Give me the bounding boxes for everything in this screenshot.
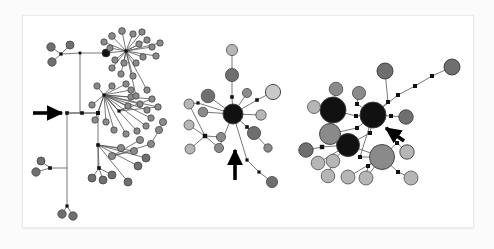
mutation-step-marker xyxy=(196,101,199,104)
haplotype-node xyxy=(136,136,143,143)
haplotype-node-gray-hub xyxy=(370,145,395,170)
haplotype-node xyxy=(153,53,159,59)
mutation-step-marker xyxy=(257,170,260,173)
mutation-step-marker xyxy=(124,49,127,52)
haplotype-node xyxy=(299,143,313,157)
haplotype-node xyxy=(142,154,150,162)
haplotype-node xyxy=(69,212,77,220)
mutation-step-marker xyxy=(430,74,434,78)
haplotype-node xyxy=(140,54,146,60)
network-edge xyxy=(398,86,415,95)
mutation-step-marker xyxy=(59,52,62,55)
figure-root xyxy=(0,0,494,249)
haplotype-node xyxy=(185,144,195,154)
network-edge xyxy=(247,160,259,172)
haplotype-node xyxy=(92,117,98,123)
haplotype-node xyxy=(404,171,418,185)
haplotype-node xyxy=(125,103,131,109)
haplotype-node xyxy=(123,81,129,87)
mutation-step-marker xyxy=(396,93,400,97)
haplotype-node xyxy=(143,123,149,129)
haplotype-node xyxy=(198,107,208,117)
mutation-step-marker xyxy=(395,141,399,145)
haplotype-node xyxy=(266,176,277,187)
mutation-step-marker xyxy=(320,145,324,149)
haplotype-node xyxy=(155,104,161,110)
haplotype-node xyxy=(184,99,194,109)
edges-layer xyxy=(36,31,452,216)
haplotype-node xyxy=(137,101,143,107)
haplotype-node xyxy=(103,119,109,125)
haplotype-node xyxy=(256,110,266,120)
network-canvas xyxy=(0,0,494,249)
haplotype-node xyxy=(155,126,162,133)
haplotype-node xyxy=(111,127,117,133)
haplotype-node xyxy=(149,44,155,50)
haplotype-node xyxy=(117,144,124,151)
haplotype-node xyxy=(159,118,166,125)
mutation-step-marker xyxy=(245,125,249,129)
haplotype-node xyxy=(265,84,280,99)
haplotype-node xyxy=(320,124,341,145)
mutation-step-marker xyxy=(358,155,362,159)
haplotype-node xyxy=(32,168,40,176)
network-edge xyxy=(61,53,80,54)
haplotype-node xyxy=(329,82,343,96)
haplotype-node xyxy=(66,41,74,49)
haplotype-node xyxy=(226,44,237,55)
mutation-step-marker xyxy=(245,158,248,161)
haplotype-node xyxy=(130,31,136,37)
haplotype-node xyxy=(359,171,373,185)
haplotype-node xyxy=(400,145,414,159)
haplotype-node xyxy=(112,57,118,63)
haplotype-node xyxy=(121,60,127,66)
haplotype-node xyxy=(124,178,132,186)
haplotype-node xyxy=(107,45,113,51)
mutation-step-marker xyxy=(102,93,105,96)
haplotype-node xyxy=(157,40,163,46)
haplotype-node xyxy=(94,83,100,89)
haplotype-node xyxy=(109,65,115,71)
mutation-step-marker xyxy=(80,111,84,115)
mutation-step-marker xyxy=(117,109,120,112)
haplotype-node xyxy=(58,210,66,218)
mutation-step-marker xyxy=(48,166,52,170)
haplotype-node xyxy=(134,128,140,134)
mutation-step-marker xyxy=(255,98,259,102)
haplotype-node xyxy=(149,96,155,102)
haplotype-node xyxy=(108,152,115,159)
haplotype-node xyxy=(123,131,129,137)
reference-arrow xyxy=(386,128,404,141)
haplotype-nodes-layer xyxy=(32,28,460,221)
haplotype-node xyxy=(321,169,335,183)
haplotype-node xyxy=(264,144,272,152)
mutation-step-marker xyxy=(386,100,390,104)
mutation-step-marker xyxy=(368,131,372,135)
mutation-step-marker xyxy=(65,204,68,207)
mutation-step-marker xyxy=(355,102,359,106)
haplotype-node xyxy=(133,93,139,99)
haplotype-node xyxy=(130,73,136,79)
haplotype-node xyxy=(47,43,55,51)
haplotype-node xyxy=(341,170,355,184)
haplotype-node xyxy=(184,120,194,130)
haplotype-node xyxy=(352,86,365,99)
haplotype-node xyxy=(214,143,223,152)
haplotype-node xyxy=(247,126,260,139)
haplotype-node xyxy=(118,71,124,77)
haplotype-node xyxy=(311,156,325,170)
mutation-step-marker xyxy=(366,164,370,168)
haplotype-node xyxy=(144,37,150,43)
mutation-step-marker xyxy=(96,111,100,115)
haplotype-node xyxy=(144,107,150,113)
haplotype-node xyxy=(377,63,393,79)
haplotype-node xyxy=(148,115,154,121)
haplotype-node xyxy=(136,41,142,47)
haplotype-node xyxy=(99,176,107,184)
haplotype-node xyxy=(134,162,142,170)
haplotype-node xyxy=(119,28,126,35)
haplotype-node xyxy=(147,140,154,147)
haplotype-node xyxy=(88,174,96,182)
haplotype-node xyxy=(201,89,215,103)
mutation-step-marker xyxy=(79,52,82,55)
